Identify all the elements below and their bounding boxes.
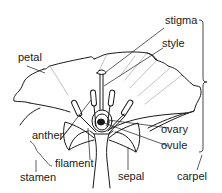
petal-left-outline xyxy=(44,57,94,69)
label-anther: anther xyxy=(32,130,63,141)
petal-right-outline xyxy=(148,75,201,128)
stamen-bracket xyxy=(30,141,52,166)
ovule-shape xyxy=(98,119,105,125)
flower-illustration xyxy=(0,0,222,193)
flower-diagram: petal stigma style anther ovary ovule fi… xyxy=(0,0,222,193)
label-filament: filament xyxy=(55,158,94,169)
leader-filament xyxy=(88,128,90,160)
label-style: style xyxy=(162,38,185,49)
petal-top-outline xyxy=(94,52,182,75)
carpel-brace xyxy=(199,20,207,152)
label-petal: petal xyxy=(18,52,42,63)
label-carpel: carpel xyxy=(177,171,207,182)
label-ovule: ovule xyxy=(161,140,187,151)
style-shape xyxy=(100,74,103,110)
label-ovary: ovary xyxy=(161,124,188,135)
label-stigma: stigma xyxy=(165,15,197,26)
stamen-group xyxy=(71,90,134,133)
leader-anther xyxy=(60,100,91,140)
label-stamen: stamen xyxy=(20,172,56,183)
leader-carpel xyxy=(197,155,202,170)
leader-stigma xyxy=(106,28,164,72)
label-sepal: sepal xyxy=(118,171,144,182)
